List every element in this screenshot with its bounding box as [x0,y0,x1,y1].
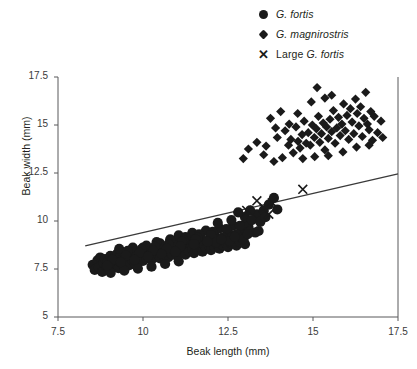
data-point-diamond [259,150,268,159]
data-point-circle [157,249,167,259]
data-point-diamond [276,107,285,116]
data-point-diamond [338,147,347,156]
data-point-circle [174,256,184,266]
data-point-diamond [269,157,278,166]
data-point-circle [216,234,226,244]
data-point-diamond [266,114,275,123]
x-axis-title: Beak length (mm) [58,345,398,357]
data-point-circle [160,259,170,269]
series-g-magnirostris [239,83,388,166]
scatter-plot-canvas [0,0,417,369]
data-point-circle [272,204,282,214]
y-axis-title: Beak width (mm) [20,96,32,216]
data-point-circle [233,207,243,217]
y-tick-label: 17.5 [18,70,48,81]
data-point-diamond [261,142,270,151]
data-point-circle [143,252,153,262]
data-point-circle [226,215,236,225]
y-tick-label: 12.5 [18,166,48,177]
data-point-circle [247,215,257,225]
data-point-diamond [252,138,261,147]
data-point-diamond [289,148,298,157]
data-point-diamond [300,117,309,126]
data-point-circle [129,255,139,265]
data-point-diamond [352,142,361,151]
data-point-circle [203,237,213,247]
data-point-circle [230,232,240,242]
x-tick-label: 7.5 [38,326,78,337]
data-point-diamond [331,139,340,148]
figure-container: G. fortis G. magnirostris ✕ Large G. for… [0,0,417,369]
y-tick-label: 10 [18,214,48,225]
data-point-diamond [310,152,319,161]
data-point-diamond [351,94,360,103]
x-tick-label: 10 [123,326,163,337]
data-point-circle [189,239,199,249]
data-point-diamond [314,112,323,121]
x-tick-label: 17.5 [378,326,417,337]
data-point-circle [102,260,112,270]
data-point-x [298,185,307,194]
data-point-diamond [361,88,370,97]
data-point-circle [243,229,253,239]
data-point-circle [213,218,223,228]
data-point-diamond [273,133,282,142]
y-tick-label: 7.5 [18,262,48,273]
data-point-diamond [244,144,253,153]
data-point-diamond [271,123,280,132]
data-point-diamond [358,132,367,141]
data-point-circle [116,257,126,267]
data-point-diamond [278,153,287,162]
data-point-circle [146,262,156,272]
data-point-diamond [376,117,385,126]
x-tick-label: 12.5 [208,326,248,337]
data-point-diamond [312,83,321,92]
data-point-diamond [339,99,348,108]
y-tick-label: 5 [18,310,48,321]
data-point-circle [170,247,180,257]
x-tick-label: 15 [293,326,333,337]
y-tick-label: 15 [18,118,48,129]
data-point-circle [254,226,264,236]
data-point-diamond [307,97,316,106]
data-point-diamond [239,154,248,163]
data-point-diamond [329,106,338,115]
data-point-diamond [293,109,302,118]
data-point-circle [133,264,143,274]
data-point-diamond [298,154,307,163]
